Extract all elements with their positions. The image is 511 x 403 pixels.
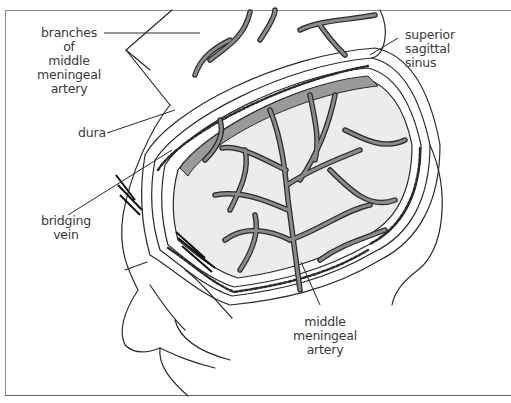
label-superior-sagittal-sinus: superior sagittal sinus <box>405 28 455 70</box>
label-middle-meningeal-artery: middle meningeal artery <box>290 315 360 357</box>
label-bridging-vein: bridging vein <box>38 214 94 242</box>
label-dura: dura <box>78 126 106 140</box>
scalp-flap <box>126 10 172 105</box>
label-branches-middle-meningeal-artery: branches of middle meningeal artery <box>36 26 102 96</box>
